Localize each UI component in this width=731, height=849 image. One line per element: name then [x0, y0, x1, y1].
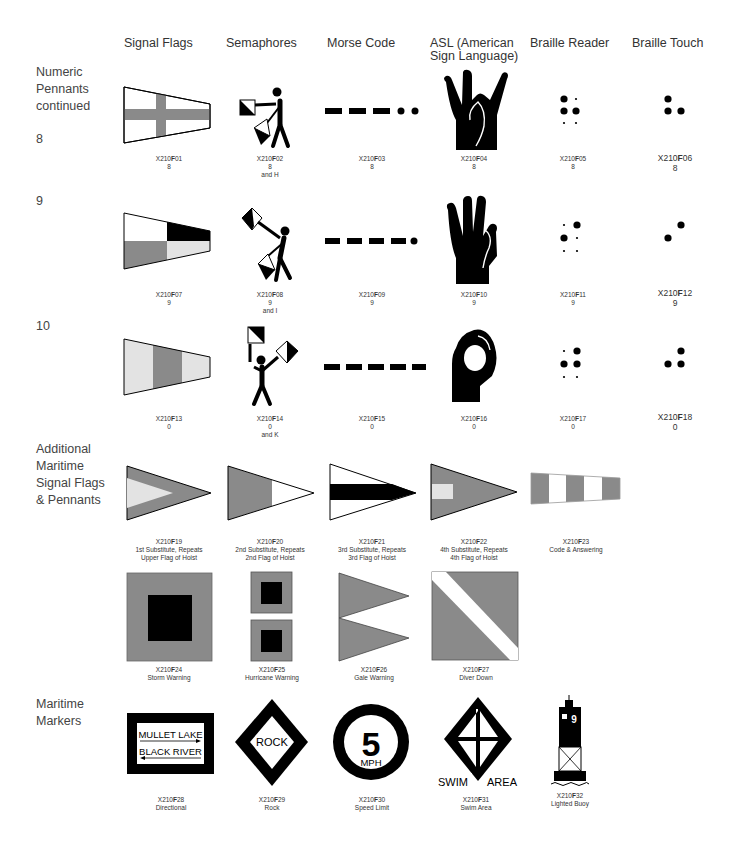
column-header-asl: ASL (American Sign Language): [430, 37, 530, 63]
speed-unit-text: MPH: [360, 757, 381, 768]
rock-text: ROCK: [256, 736, 288, 748]
gale-warning-pennants-icon: [339, 573, 411, 663]
first-substitute-pennant-icon: [127, 466, 213, 522]
buoy-number-text: 9: [571, 714, 577, 725]
directional-top-text: MULLET LAKE: [138, 729, 202, 740]
diver-down-flag-icon: [432, 572, 520, 662]
numeral-pennant-9-flag-icon: [124, 213, 214, 270]
row-label-8: 8: [36, 131, 43, 148]
directional-bottom-text: BLACK RIVER: [139, 746, 202, 757]
row-label-additional-flags: Additional Maritime Signal Flags & Penna…: [36, 441, 105, 509]
morse-8-icon: [325, 107, 425, 117]
fourth-substitute-pennant-icon: [431, 464, 519, 522]
row-label-numeric-pennants: Numeric Pennants continued: [36, 64, 90, 115]
row-label-10: 10: [36, 318, 50, 335]
column-header-semaphores: Semaphores: [226, 37, 297, 50]
caption-F12: X210F12 9: [615, 288, 731, 308]
morse-0-icon: [324, 363, 428, 373]
caption-F06: X210F06 8: [615, 153, 731, 173]
swim-area-marker-icon: SWIM AREA: [436, 697, 520, 789]
semaphore-0-icon: [240, 327, 302, 407]
area-text: AREA: [487, 776, 518, 788]
braille-touch-9-icon: [664, 221, 694, 245]
lighted-buoy-icon: 9: [551, 695, 589, 789]
semaphore-8-icon: [240, 88, 300, 150]
braille-touch-0-icon: [664, 347, 694, 371]
caption-F23: X210F23 Code & Answering: [516, 538, 636, 554]
hurricane-warning-flags-icon: [251, 572, 293, 662]
row-label-9: 9: [36, 193, 43, 210]
caption-F30: X210F30 Speed Limit: [312, 796, 432, 812]
directional-marker-icon: MULLET LAKE BLACK RIVER: [127, 713, 215, 775]
caption-F24: X210F24 Storm Warning: [109, 666, 229, 682]
numeral-pennant-0-flag-icon: [124, 339, 214, 396]
caption-F18: X210F18 0: [615, 412, 731, 432]
asl-8-hand-icon: [442, 70, 507, 150]
column-header-morse-code: Morse Code: [327, 37, 395, 50]
morse-9-icon: [325, 237, 425, 247]
asl-9-hand-icon: [445, 196, 507, 284]
asl-0-hand-icon: [450, 328, 500, 404]
caption-F32: X210F32 Lighted Buoy: [510, 792, 630, 808]
third-substitute-pennant-icon: [330, 464, 418, 522]
column-header-braille-touch: Braille Touch: [632, 37, 703, 50]
swim-text: SWIM: [438, 776, 468, 788]
braille-reader-0-icon: [560, 347, 590, 382]
storm-warning-flag-icon: [127, 573, 213, 662]
braille-touch-8-icon: [664, 95, 694, 119]
rock-marker-icon: ROCK: [235, 699, 309, 789]
semaphore-9-icon: [240, 208, 302, 284]
caption-F27: X210F27 Diver Down: [416, 666, 536, 682]
braille-reader-8-icon: [560, 95, 590, 130]
code-answering-pennant-icon: [531, 473, 623, 507]
braille-reader-9-icon: [560, 221, 590, 256]
column-header-braille-reader: Braille Reader: [530, 37, 609, 50]
speed-limit-marker-icon: 5 MPH: [332, 698, 412, 788]
row-label-maritime-markers: Maritime Markers: [36, 696, 84, 730]
numeral-pennant-8-flag-icon: [124, 87, 214, 144]
column-header-signal-flags: Signal Flags: [124, 37, 193, 50]
second-substitute-pennant-icon: [228, 466, 316, 522]
